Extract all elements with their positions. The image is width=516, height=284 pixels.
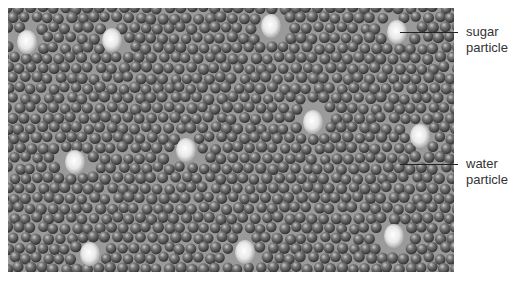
sugar-particle [65, 150, 85, 174]
water-leader-line [400, 164, 458, 165]
sugar-particle [80, 242, 100, 266]
sugar-particle [261, 14, 281, 38]
sugar-particle [410, 124, 430, 148]
water-particle-label: water particle [466, 156, 508, 188]
water-label-line2: particle [466, 172, 508, 188]
sugar-label-line2: particle [466, 40, 508, 56]
sugar-leader-line [400, 32, 458, 33]
sugar-particle [176, 138, 196, 162]
sugar-label-line1: sugar [466, 24, 508, 40]
water-label-line1: water [466, 156, 508, 172]
sugar-particle [102, 28, 122, 52]
particle-field [8, 8, 454, 272]
sugar-particle [303, 110, 323, 134]
sugar-particle [17, 30, 37, 54]
particle-micrograph [8, 8, 454, 272]
sugar-particle [235, 240, 255, 264]
sugar-particle [384, 224, 404, 248]
sugar-particle-label: sugar particle [466, 24, 508, 56]
